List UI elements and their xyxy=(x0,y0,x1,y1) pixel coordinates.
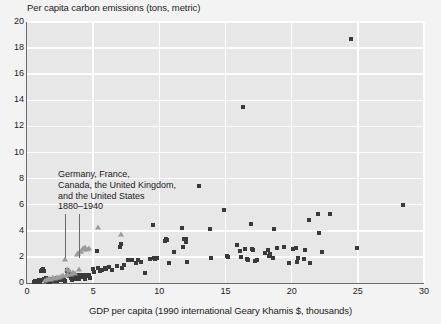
data-point-square xyxy=(165,238,169,242)
data-point-square xyxy=(328,212,332,216)
data-point-square xyxy=(139,260,143,264)
gridline-vertical xyxy=(423,22,425,283)
y-axis-tick-label: 16 xyxy=(0,68,24,78)
y-axis-tick-label: 4 xyxy=(0,225,24,235)
data-point-square xyxy=(246,258,250,262)
x-axis-line xyxy=(27,283,424,284)
data-point-square xyxy=(308,261,312,265)
data-point-square xyxy=(243,247,247,251)
data-point-triangle xyxy=(95,225,101,230)
x-axis-tick-label: 5 xyxy=(91,286,96,296)
data-point-square xyxy=(251,248,255,252)
data-point-triangle xyxy=(76,267,82,272)
data-point-square xyxy=(401,203,405,207)
annotation-line-4: 1880–1940 xyxy=(58,201,176,212)
data-point-square xyxy=(272,227,276,231)
data-point-square xyxy=(239,255,243,259)
y-axis-tick-label: 6 xyxy=(0,199,24,209)
data-point-square xyxy=(42,269,46,273)
data-point-square xyxy=(302,257,306,261)
y-axis-tick-label: 12 xyxy=(0,120,24,130)
data-point-square xyxy=(238,249,242,253)
annotation-callout: Germany, France, Canada, the United King… xyxy=(58,169,176,212)
data-point-square xyxy=(317,231,321,235)
data-point-square xyxy=(95,249,99,253)
data-point-square xyxy=(355,246,359,250)
x-axis-tick-label: 0 xyxy=(24,286,29,296)
y-axis-tick-label: 10 xyxy=(0,147,24,157)
data-point-square xyxy=(282,245,286,249)
data-point-square xyxy=(271,256,275,260)
data-point-square xyxy=(320,250,324,254)
data-point-square xyxy=(119,242,123,246)
scatter-chart: 20181614121086420 051015202530 Per capit… xyxy=(0,0,441,324)
data-point-square xyxy=(122,263,126,267)
y-axis-title: Per capita carbon emissions (tons, metri… xyxy=(27,2,200,13)
data-point-square xyxy=(110,268,114,272)
data-point-square xyxy=(241,105,245,109)
x-axis-tick-label: 30 xyxy=(419,286,429,296)
data-point-square xyxy=(185,260,189,264)
data-point-square xyxy=(115,264,119,268)
data-point-square xyxy=(172,250,176,254)
annotation-leader-line xyxy=(65,214,66,258)
gridline-vertical xyxy=(357,22,359,283)
data-point-square xyxy=(294,246,298,250)
data-point-square xyxy=(295,260,299,264)
data-point-square xyxy=(181,245,185,249)
data-point-square xyxy=(155,256,159,260)
y-axis-tick-label: 8 xyxy=(0,173,24,183)
annotation-line-1: Germany, France, xyxy=(58,169,176,180)
gridline-vertical xyxy=(159,22,161,283)
gridline-vertical xyxy=(92,22,94,283)
data-point-square xyxy=(226,255,230,259)
annotation-leader-line xyxy=(79,214,80,258)
y-axis-tick-label: 2 xyxy=(0,251,24,261)
data-point-square xyxy=(349,37,353,41)
data-point-square xyxy=(275,246,279,250)
data-point-square xyxy=(303,248,307,252)
data-point-square xyxy=(63,279,67,283)
y-axis-tick-label: 18 xyxy=(0,42,24,52)
data-point-square xyxy=(151,223,155,227)
y-axis-line xyxy=(26,22,27,284)
data-point-square xyxy=(222,208,226,212)
data-point-square xyxy=(88,276,92,280)
y-axis-tick-label: 14 xyxy=(0,94,24,104)
gridline-vertical xyxy=(291,22,293,283)
annotation-line-2: Canada, the United Kingdom, xyxy=(58,180,176,191)
x-axis-title: GDP per capita (1990 international Geary… xyxy=(0,305,441,316)
data-point-square xyxy=(316,212,320,216)
data-point-square xyxy=(92,270,96,274)
data-point-square xyxy=(287,261,291,265)
data-point-square xyxy=(209,256,213,260)
x-axis-tick-label: 20 xyxy=(287,286,297,296)
annotation-line-3: and the United States xyxy=(58,191,176,202)
data-point-square xyxy=(255,258,259,262)
x-axis-tick-label: 10 xyxy=(154,286,164,296)
data-point-square xyxy=(208,227,212,231)
x-axis-tick-label: 25 xyxy=(353,286,363,296)
data-point-square xyxy=(143,271,147,275)
y-axis-tick-label: 20 xyxy=(0,16,24,26)
data-point-square xyxy=(167,261,171,265)
gridline-vertical xyxy=(225,22,227,283)
data-point-square xyxy=(249,222,253,226)
data-point-square xyxy=(266,248,270,252)
data-point-triangle xyxy=(86,246,92,251)
data-point-triangle xyxy=(118,231,124,236)
data-point-square xyxy=(296,256,300,260)
data-point-square xyxy=(180,226,184,230)
data-point-square xyxy=(235,243,239,247)
data-point-square xyxy=(197,184,201,188)
x-axis-tick-label: 15 xyxy=(220,286,230,296)
y-axis-tick-label: 0 xyxy=(0,277,24,287)
data-point-square xyxy=(307,218,311,222)
data-point-square xyxy=(184,240,188,244)
